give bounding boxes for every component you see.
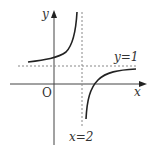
curve-left-branch bbox=[28, 12, 77, 62]
vertical-asymptote-label: x=2 bbox=[69, 130, 93, 144]
curve-right-branch bbox=[86, 69, 136, 119]
y-axis-label: y bbox=[41, 7, 49, 21]
x-axis-label: x bbox=[134, 85, 141, 99]
y-axis-arrow-icon bbox=[51, 10, 57, 18]
function-graph: y x O y=1 x=2 bbox=[0, 0, 156, 153]
origin-label: O bbox=[42, 86, 52, 100]
horizontal-asymptote-label: y=1 bbox=[113, 50, 138, 64]
